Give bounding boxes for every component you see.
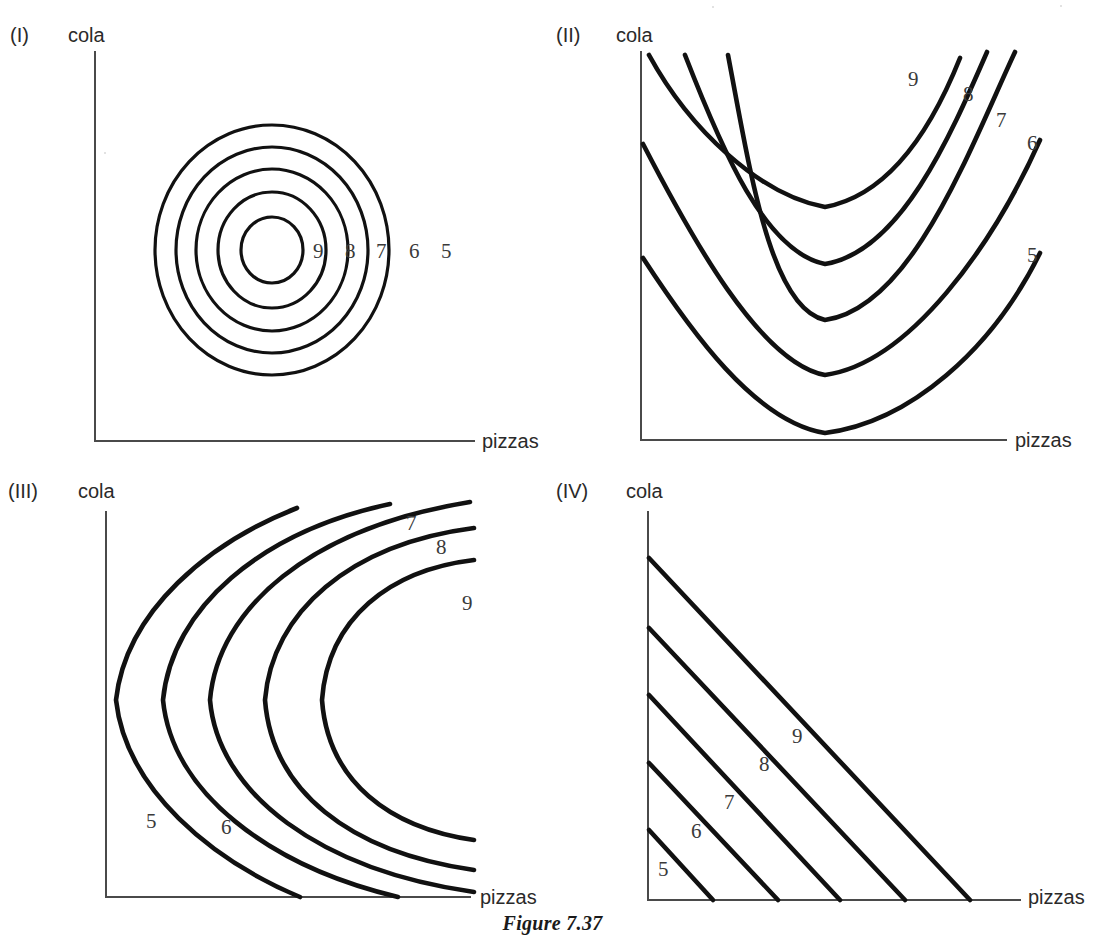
curve-label-8: 8	[963, 82, 974, 106]
y-axis-label-i: cola	[68, 24, 106, 46]
parabola-curve-5	[643, 253, 1040, 433]
panel-tag-iii: (III)	[8, 480, 38, 502]
y-axis-label-iv: cola	[626, 480, 664, 502]
budget-line-8	[649, 628, 905, 900]
curve-label-6: 6	[409, 239, 420, 263]
parabola-curve-8	[685, 52, 987, 264]
curve-label-7: 7	[376, 239, 387, 263]
x-axis-label-i: pizzas	[482, 430, 539, 452]
parabola-curve-9	[322, 560, 474, 840]
panel-tag-ii: (II)	[556, 24, 580, 46]
curve-label-7: 7	[406, 511, 417, 535]
curve-label-8: 8	[345, 239, 356, 263]
contour-curve-8	[218, 192, 326, 308]
figure-sheet: (I) cola pizzas 9 8 7 6 5 (II) cola pizz…	[0, 0, 1105, 945]
panel-iii: (III) cola pizzas 5 6 7 8 9	[0, 460, 553, 910]
curve-label-9: 9	[462, 591, 473, 615]
curve-label-9: 9	[792, 724, 803, 748]
parabola-curve-8	[265, 528, 474, 870]
curve-label-5: 5	[1027, 243, 1038, 267]
figure-caption: Figure 7.37	[0, 912, 1105, 935]
panel-i: (I) cola pizzas 9 8 7 6 5	[0, 0, 553, 470]
x-axis-label-iii: pizzas	[480, 886, 537, 908]
panel-tag-iv: (IV)	[556, 480, 588, 502]
budget-line-9	[649, 558, 970, 900]
curve-label-5: 5	[146, 809, 157, 833]
contour-curve-6	[176, 147, 368, 353]
y-axis-label-iii: cola	[78, 480, 116, 502]
y-axis-label-ii: cola	[616, 24, 654, 46]
x-axis-label-ii: pizzas	[1015, 429, 1072, 451]
contour-curve-9	[241, 217, 303, 283]
panel-tag-i: (I)	[10, 24, 29, 46]
curve-label-8: 8	[436, 535, 447, 559]
curve-label-9: 9	[313, 239, 324, 263]
curve-label-9: 9	[908, 67, 919, 91]
curve-label-8: 8	[759, 752, 770, 776]
curve-label-7: 7	[724, 790, 735, 814]
panel-iv: (IV) cola pizzas 5 6 7 8 9	[550, 460, 1105, 910]
curve-label-5: 5	[658, 857, 669, 881]
curve-label-6: 6	[1027, 131, 1038, 155]
x-axis-label-iv: pizzas	[1028, 886, 1085, 908]
panel-ii: (II) cola pizzas 9 8 7 6 5	[550, 0, 1105, 470]
curve-label-6: 6	[691, 819, 702, 843]
curve-label-7: 7	[996, 108, 1007, 132]
curve-label-6: 6	[221, 815, 232, 839]
curve-label-5: 5	[441, 239, 452, 263]
